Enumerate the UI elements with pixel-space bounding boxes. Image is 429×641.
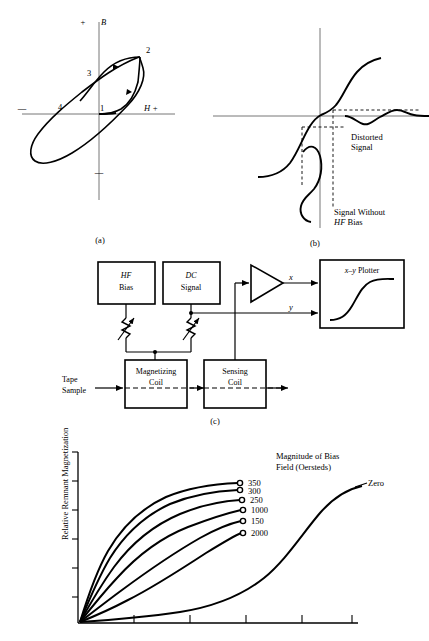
caption-c: (c)	[210, 416, 220, 426]
chart-x-ticks	[134, 615, 352, 623]
panel-b-distorted-signal	[345, 110, 429, 124]
panel-a-point-3: 3	[87, 68, 91, 78]
panel-a-point-1: 1	[100, 103, 104, 113]
chart-legend-title-line1: Magnitude of Bias	[276, 451, 339, 461]
signal-x-label: x	[288, 272, 293, 282]
block-hf-bias-line2: Bias	[119, 283, 133, 292]
chart-curve-150	[80, 521, 241, 622]
panel-a-b-label: B	[101, 17, 106, 27]
panel-a-h-label: H +	[143, 103, 158, 113]
signal-y-label: y	[288, 302, 293, 312]
panel-b-bias-rest: Bias	[345, 217, 362, 227]
resistor-dc-arrow	[183, 318, 199, 340]
panel-a-arrow-inner	[126, 89, 132, 95]
chart-endpoint-2000	[240, 530, 245, 535]
panel-d-chart: Relative Remnant Magnetization 350 300 2…	[60, 427, 384, 623]
block-magnetizing-coil-line1: Magnetizing	[136, 367, 176, 376]
panel-a-branch-2-3	[80, 57, 140, 101]
amplifier-triangle[interactable]	[251, 265, 283, 302]
chart-label-2000: 2000	[251, 528, 268, 538]
panel-b-transfer: Distorted Signal Signal Without HF Bias …	[213, 28, 429, 248]
panel-a-point-4: 4	[58, 102, 63, 112]
chart-label-250: 250	[250, 495, 263, 505]
panel-a-initial-segment	[99, 113, 116, 114]
panel-c-block-diagram: HF Bias DC Signal Magnetizing Coil	[62, 260, 404, 426]
panel-a-point-2: 2	[146, 45, 150, 55]
resistor-hf-arrow	[118, 318, 134, 340]
chart-endpoint-350	[237, 480, 242, 485]
chart-label-150: 150	[251, 516, 264, 526]
chart-endpoint-150	[240, 518, 245, 523]
panel-a-hysteresis: + B — H + — 1 2 3 4 (a)	[17, 17, 175, 245]
block-dc-signal-line1: DC	[184, 271, 197, 280]
figure-magnetic-recording: + B — H + — 1 2 3 4 (a)	[0, 0, 429, 641]
plotter-trace	[330, 279, 394, 320]
tape-label-line2: Sample	[62, 386, 86, 395]
plotter-title: x–y Plotter	[344, 266, 380, 275]
block-dc-signal-line2: Signal	[181, 283, 202, 292]
chart-curve-2000	[80, 533, 241, 622]
chart-endpoint-1000	[240, 507, 245, 512]
chart-curve-1000	[80, 510, 241, 622]
panel-a-minus-left: —	[17, 103, 27, 113]
block-sensing-coil-line1: Sensing	[222, 367, 247, 376]
chart-endpoint-250	[239, 497, 244, 502]
chart-legend-title-line2: Field (Oersteds)	[276, 462, 331, 472]
block-magnetizing-coil-line2: Coil	[149, 378, 164, 387]
chart-label-1000: 1000	[251, 505, 268, 515]
chart-endpoint-300	[237, 487, 242, 492]
panel-b-nobias-label-line1: Signal Without	[334, 207, 386, 217]
chart-y-axis-title: Relative Remnant Magnetization	[60, 427, 70, 540]
caption-a: (a)	[95, 235, 105, 245]
block-sensing-coil-line2: Coil	[228, 378, 243, 387]
node-source-bus	[153, 350, 157, 354]
block-hf-bias-line1: HF	[120, 271, 132, 280]
panel-b-input-signal	[301, 147, 322, 222]
chart-label-zero: Zero	[368, 478, 384, 488]
tape-label-line1: Tape	[62, 375, 78, 384]
caption-b: (b)	[310, 238, 320, 248]
panel-a-plus-sign: +	[81, 17, 86, 27]
chart-y-ticks	[72, 452, 78, 597]
chart-curve-zero	[80, 486, 362, 622]
panel-a-minus-bottom: —	[94, 167, 104, 177]
panel-b-distorted-label-line2: Signal	[351, 142, 373, 152]
panel-b-distorted-label-line1: Distorted	[351, 132, 383, 142]
panel-b-nobias-label-line2: HF Bias	[333, 217, 363, 227]
node-y-tap	[189, 311, 193, 315]
chart-curve-300	[80, 490, 238, 622]
panel-b-hf-italic: HF	[333, 217, 346, 227]
